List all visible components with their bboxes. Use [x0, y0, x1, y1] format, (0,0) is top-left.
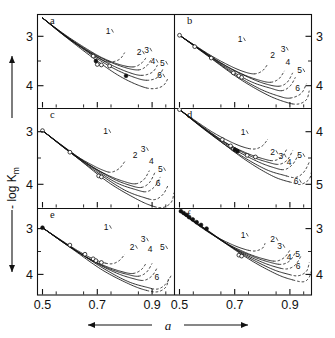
curve-label-b-4: 4: [286, 57, 291, 67]
xaxis-arrow-right-head: [241, 322, 248, 328]
panel-letter-f: f: [187, 209, 191, 220]
panel-letter-c: c: [50, 109, 55, 120]
curve-label-e-5: 5: [160, 242, 165, 252]
data-point-filled-a-0: [94, 59, 98, 63]
figure-container: 123456a34123456b34123456c34123456d451234…: [0, 0, 335, 338]
xtick-label-1-0.7: 0.7: [226, 298, 243, 312]
data-point-filled-f-5: [195, 220, 199, 224]
panel-c-curves: [41, 129, 174, 208]
curve-label-f-4: 4: [287, 252, 292, 262]
curve-label-tick-f-1: [246, 233, 248, 236]
curve-label-e-6: 6: [155, 272, 160, 282]
curve-f-1-dashed: [248, 243, 265, 251]
xtick-label-0-0.5: 0.5: [34, 298, 51, 312]
panel-d-curves: [178, 108, 312, 185]
data-point-open-c-3: [99, 175, 103, 179]
curve-label-b-5: 5: [297, 65, 302, 75]
xtick-label-0-0.7: 0.7: [89, 298, 106, 312]
y-axis-title-group: - log Km: [5, 167, 21, 209]
curve-a-3-solid: [42, 18, 138, 70]
curve-label-tick-b-3: [286, 47, 288, 50]
curve-label-tick-f-3: [283, 244, 285, 247]
curve-label-c-5: 5: [158, 164, 163, 174]
data-point-filled-f-4: [191, 218, 195, 222]
y-axis-title: - log Km: [5, 167, 21, 209]
curve-d-6-dashed: [289, 170, 312, 185]
curve-label-d-4: 4: [287, 157, 292, 167]
curve-b-1-dashed: [254, 64, 268, 74]
curve-b-3-dashed: [279, 73, 293, 86]
data-point-open-a-3: [108, 64, 112, 68]
data-point-open-b-3: [231, 71, 235, 75]
curve-label-c-2: 2: [133, 150, 138, 160]
panel-letter-b: b: [187, 15, 192, 26]
curve-label-a-1: 1: [106, 26, 111, 36]
panel-f: 123456f34: [179, 209, 323, 295]
ytick-label-d-5: 5: [316, 178, 323, 192]
data-point-open-d-2: [229, 144, 233, 148]
curve-c-3-dashed: [141, 173, 155, 188]
panel-b-curves: [178, 33, 310, 104]
xtick-label-1-0.5: 0.5: [171, 298, 188, 312]
curve-a-5-solid: [42, 18, 146, 80]
curve-label-a-4: 4: [150, 56, 155, 66]
panel-e-curves: [41, 226, 172, 292]
curve-a-4-solid: [42, 18, 141, 75]
curve-label-b-1: 1: [238, 34, 243, 44]
ytick-label-a-4: 4: [26, 79, 33, 93]
curve-label-tick-d-6: [299, 179, 301, 182]
curve-label-tick-c-1: [109, 129, 111, 132]
data-point-open-f-1: [240, 254, 244, 258]
curve-label-tick-e-3: [147, 238, 149, 241]
panel-e: 123456e34: [26, 209, 171, 295]
curve-d-4-solid: [180, 110, 282, 170]
curve-label-c-3: 3: [141, 144, 146, 154]
data-point-filled-a-1: [124, 74, 128, 78]
panel-letter-a: a: [50, 15, 55, 26]
curve-e-2-dashed: [133, 262, 147, 273]
xtick-label-0-0.9: 0.9: [143, 298, 160, 312]
curve-c-2-dashed: [136, 171, 150, 184]
data-point-open-c-1: [68, 150, 72, 154]
data-point-open-d-5: [245, 153, 249, 157]
curve-label-tick-e-1: [110, 225, 112, 228]
curve-a-2-dashed: [133, 57, 147, 67]
data-point-open-a-0: [91, 54, 95, 58]
curve-b-1-solid: [180, 35, 255, 74]
ytick-label-f-3: 3: [316, 222, 323, 236]
data-point-filled-d-1: [236, 149, 240, 153]
data-point-open-e-1: [83, 252, 87, 256]
data-point-open-b-2: [209, 56, 213, 60]
curve-d-1-dashed: [248, 139, 267, 149]
curve-c-6-dashed: [154, 193, 174, 208]
ytick-label-c-3: 3: [26, 125, 33, 139]
curve-label-f-2: 2: [270, 234, 275, 244]
multi-panel-plot: 123456a34123456b34123456c34123456d451234…: [0, 0, 335, 338]
curve-label-b-2: 2: [270, 50, 275, 60]
curve-label-f-1: 1: [241, 230, 246, 240]
data-point-open-d-1: [220, 138, 224, 142]
curve-c-1-dashed: [108, 162, 125, 173]
curve-label-e-4: 4: [148, 244, 153, 254]
curve-label-tick-b-1: [244, 38, 246, 41]
curve-label-a-6: 6: [157, 70, 162, 80]
ytick-label-a-3: 3: [26, 30, 33, 44]
curve-label-tick-a-3: [150, 48, 152, 51]
curve-label-tick-d-1: [246, 130, 248, 133]
ytick-label-b-4: 4: [316, 79, 323, 93]
curve-label-tick-d-5: [303, 153, 305, 156]
data-point-open-b-1: [193, 45, 197, 49]
curve-a-1-dashed: [108, 53, 124, 62]
data-point-open-b-5: [240, 75, 244, 79]
panel-b: 123456b34: [178, 15, 323, 108]
curve-label-tick-e-5: [166, 246, 168, 249]
curve-c-3-solid: [42, 131, 141, 188]
curve-e-1-solid: [42, 228, 105, 263]
curve-label-f-6: 6: [296, 261, 301, 271]
panel-letter-e: e: [50, 209, 55, 220]
xtick-label-1-0.9: 0.9: [281, 298, 298, 312]
ytick-label-b-3: 3: [316, 30, 323, 44]
curve-label-a-5: 5: [160, 58, 165, 68]
curve-b-3-solid: [180, 35, 279, 86]
ytick-label-e-3: 3: [26, 222, 33, 236]
